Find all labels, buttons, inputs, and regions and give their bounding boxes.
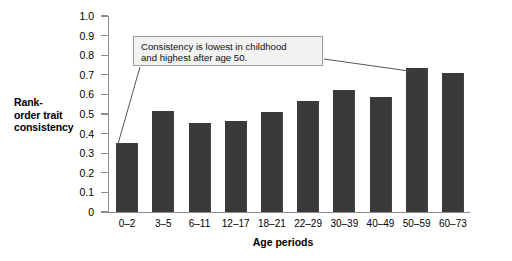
y-axis-tick-label: 0 — [58, 207, 94, 218]
y-axis-tick-label: 0.6 — [58, 89, 94, 100]
x-axis-title: Age periods — [0, 236, 512, 248]
y-axis-tick — [101, 192, 108, 193]
y-axis-tick — [101, 172, 108, 173]
bar — [442, 73, 464, 212]
bar-chart-figure: Rank- order trait consistency 1.00.90.80… — [0, 0, 512, 261]
y-axis-tick-label: 0.8 — [58, 50, 94, 61]
y-axis-tick — [101, 55, 108, 56]
x-axis-tick-label: 60–73 — [431, 218, 475, 229]
y-axis-tick — [101, 35, 108, 36]
bar — [333, 90, 355, 212]
y-axis-tick — [101, 211, 108, 212]
bar — [116, 143, 138, 212]
bar — [225, 121, 247, 212]
y-axis-tick-label: 0.7 — [58, 70, 94, 81]
bar — [152, 111, 174, 212]
y-axis-tick-label: 0.3 — [58, 148, 94, 159]
y-axis-tick-label: 0.1 — [58, 187, 94, 198]
y-axis-tick-label: 0.2 — [58, 168, 94, 179]
bar — [406, 68, 428, 212]
y-axis-tick — [101, 74, 108, 75]
annotation-line-2: and highest after age 50. — [141, 52, 316, 63]
annotation-callout: Consistency is lowest in childhood and h… — [133, 36, 323, 66]
y-axis-tick-label: 0.4 — [58, 129, 94, 140]
y-axis-tick-label: 0.9 — [58, 31, 94, 42]
y-axis-tick-label: 0.5 — [58, 109, 94, 120]
y-axis-tick — [101, 153, 108, 154]
bar — [370, 97, 392, 212]
y-axis-tick-label: 1.0 — [58, 11, 94, 22]
annotation-line-1: Consistency is lowest in childhood — [141, 41, 316, 52]
bar — [261, 112, 283, 212]
y-axis-tick — [101, 15, 108, 16]
y-axis-tick — [101, 133, 108, 134]
y-axis-tick — [101, 113, 108, 114]
bar — [297, 101, 319, 212]
bar — [189, 123, 211, 212]
y-axis-tick — [101, 94, 108, 95]
